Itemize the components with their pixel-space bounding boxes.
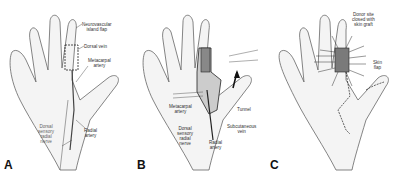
- label-dorsal-sensory-radial-nerve: Dorsal sensory radial nerve: [38, 124, 54, 144]
- panel-letter-c: C: [270, 158, 279, 172]
- label-donor-site: Donor site closed with skin graft: [352, 12, 375, 27]
- label-neurovascular-island-flap: Neurovascular island flap: [82, 22, 112, 32]
- label-radial-artery: Radial artery: [84, 128, 97, 138]
- panel-c: Donor site closed with skin graft Skin f…: [266, 0, 399, 175]
- label-dorsal-vein: Dorsal vein: [84, 44, 107, 49]
- label-tunnel: Tunnel: [237, 107, 251, 112]
- label-subcutaneous-vein: Subcutaneous vein: [227, 124, 256, 134]
- panel-b: Metacarpal artery Tunnel Dorsal sensory …: [133, 0, 266, 175]
- hand-illustration-c: [266, 0, 400, 175]
- hand-illustration-b: [133, 0, 266, 175]
- panel-letter-b: B: [137, 158, 146, 172]
- panel-letter-a: A: [4, 158, 13, 172]
- label-skin-flap: Skin flap: [373, 60, 382, 70]
- hand-illustration-a: [0, 0, 133, 175]
- label-radial-artery: Radial artery: [209, 140, 222, 150]
- label-dorsal-sensory-radial-nerve: Dorsal sensory radial nerve: [177, 126, 193, 146]
- label-metacarpal-artery: Metacarpal artery: [169, 104, 192, 114]
- label-metacarpal-artery: Metacarpal artery: [88, 58, 111, 68]
- panel-a: Neurovascular island flap Dorsal vein Me…: [0, 0, 133, 175]
